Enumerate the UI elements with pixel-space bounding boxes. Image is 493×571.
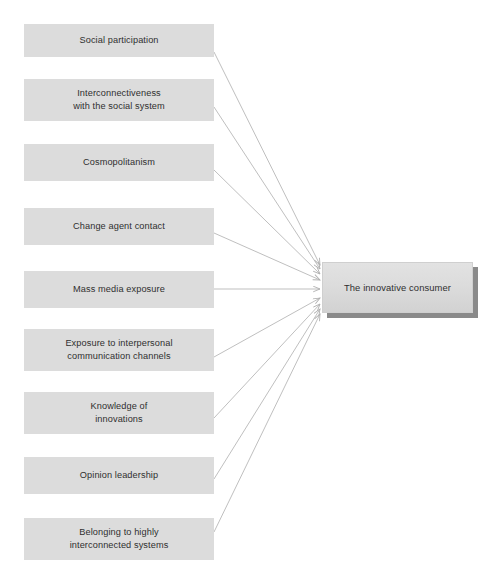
source-box-mass-media-exposure[interactable]: Mass media exposure	[24, 271, 214, 308]
source-box-belonging-interconnected-systems[interactable]: Belonging to highly interconnected syste…	[24, 518, 214, 560]
connector-cosmopolitanism	[214, 170, 320, 274]
connector-lines	[214, 52, 320, 532]
source-box-social-participation[interactable]: Social participation	[24, 24, 214, 57]
source-box-change-agent-contact[interactable]: Change agent contact	[24, 208, 214, 245]
source-box-label: Exposure to interpersonal communication …	[59, 337, 178, 363]
source-box-opinion-leadership[interactable]: Opinion leadership	[24, 457, 214, 494]
source-box-label: Social participation	[73, 34, 164, 47]
diagram-canvas: Social participation Interconnectiveness…	[0, 0, 493, 571]
connector-belonging-interconnected-systems	[214, 314, 320, 532]
connector-knowledge-of-innovations	[214, 304, 320, 418]
source-box-label: Change agent contact	[67, 220, 171, 233]
source-box-label: Belonging to highly interconnected syste…	[64, 526, 175, 552]
connector-social-participation	[214, 52, 320, 265]
source-box-cosmopolitanism[interactable]: Cosmopolitanism	[24, 144, 214, 181]
target-box-label: The innovative consumer	[344, 282, 451, 293]
source-box-label: Interconnectiveness with the social syst…	[67, 87, 171, 113]
connector-change-agent-contact	[214, 233, 320, 280]
connector-exposure-interpersonal-communication	[214, 298, 320, 357]
target-box-innovative-consumer[interactable]: The innovative consumer	[322, 262, 473, 313]
source-box-exposure-interpersonal-communication[interactable]: Exposure to interpersonal communication …	[24, 329, 214, 371]
source-box-label: Opinion leadership	[74, 469, 164, 482]
source-box-label: Knowledge of innovations	[85, 400, 154, 426]
source-box-label: Cosmopolitanism	[77, 156, 161, 169]
source-box-interconnectiveness-social-system[interactable]: Interconnectiveness with the social syst…	[24, 79, 214, 121]
source-box-knowledge-of-innovations[interactable]: Knowledge of innovations	[24, 392, 214, 434]
source-box-label: Mass media exposure	[67, 283, 171, 296]
connector-interconnectiveness-social-system	[214, 107, 320, 269]
connector-opinion-leadership	[214, 309, 320, 479]
